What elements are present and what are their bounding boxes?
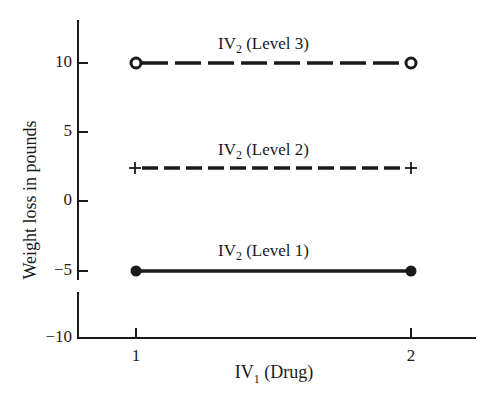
label-main: IV	[218, 34, 236, 53]
series-level-2	[129, 162, 417, 174]
series-level-3	[131, 58, 416, 68]
label-rest: (Level 2)	[242, 140, 309, 159]
x-tick-label: 2	[401, 346, 421, 366]
y-tick-label: −10	[22, 327, 72, 347]
label-rest: (Level 1)	[242, 241, 309, 260]
series-level-1	[131, 266, 417, 277]
y-tick-label: 10	[22, 52, 72, 72]
filled-circle-marker	[131, 266, 142, 277]
chart-canvas	[0, 0, 503, 406]
plus-marker	[405, 162, 417, 174]
x-ticks	[136, 328, 411, 338]
x-axis-label-main: IV	[235, 362, 254, 382]
x-tick-label: 1	[126, 346, 146, 366]
x-axis-label-rest: (Drug)	[260, 362, 313, 382]
plus-marker	[129, 162, 141, 174]
series-label-level-2: IV2 (Level 2)	[218, 140, 309, 163]
open-circle-marker	[131, 58, 141, 68]
label-main: IV	[218, 241, 236, 260]
series-label-level-3: IV2 (Level 3)	[218, 34, 309, 57]
x-axis-label: IV1 (Drug)	[235, 362, 313, 387]
open-circle-marker	[406, 58, 416, 68]
label-rest: (Level 3)	[242, 34, 309, 53]
series-label-level-1: IV2 (Level 1)	[218, 241, 309, 264]
y-axis-label: Weight loss in pounds	[20, 120, 41, 279]
y-ticks	[78, 63, 88, 271]
label-main: IV	[218, 140, 236, 159]
filled-circle-marker	[406, 266, 417, 277]
